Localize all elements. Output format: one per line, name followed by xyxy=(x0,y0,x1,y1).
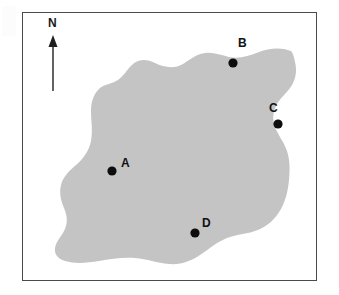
scan-artifact xyxy=(2,6,16,36)
point-label-c: C xyxy=(269,102,278,114)
point-marker-c[interactable] xyxy=(273,119,282,128)
island-landmass-shape xyxy=(55,48,296,264)
point-marker-d[interactable] xyxy=(190,228,199,237)
point-marker-b[interactable] xyxy=(228,58,237,67)
north-arrow-icon xyxy=(49,35,58,91)
map-frame-border: N A B C D xyxy=(22,12,317,281)
point-label-a: A xyxy=(121,157,130,169)
point-label-d: D xyxy=(202,217,211,229)
map-figure: N A B C D xyxy=(0,0,339,295)
north-arrow-label: N xyxy=(48,17,57,29)
point-label-b: B xyxy=(238,37,247,49)
point-marker-a[interactable] xyxy=(107,166,116,175)
map-canvas xyxy=(23,13,315,279)
